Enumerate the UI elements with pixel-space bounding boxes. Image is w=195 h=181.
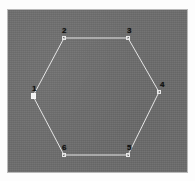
hexagon-outline-path[interactable]	[33, 38, 159, 155]
vertex-handle-3[interactable]	[126, 36, 130, 40]
app-root: 123456	[0, 0, 195, 181]
vertex-handle-6[interactable]	[62, 153, 66, 157]
vertex-label-3: 3	[127, 27, 131, 35]
vertex-handle-1[interactable]	[31, 93, 36, 99]
vertex-label-4: 4	[160, 81, 164, 89]
vertex-handle-5[interactable]	[126, 153, 130, 157]
vertex-handle-2[interactable]	[62, 36, 66, 40]
vertex-handle-4[interactable]	[157, 90, 161, 94]
vertex-label-6: 6	[62, 144, 66, 152]
vertex-label-2: 2	[62, 27, 66, 35]
drawing-canvas-frame: 123456	[7, 9, 188, 173]
vertex-label-5: 5	[127, 144, 131, 152]
vertex-label-1: 1	[32, 85, 36, 93]
